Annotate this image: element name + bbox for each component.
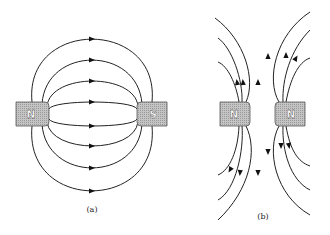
field-line [218,126,251,220]
arrow-icon [89,123,95,128]
field-line [49,102,137,109]
arrow-icon [240,79,246,85]
panel-b: N N (b) [215,12,310,221]
field-line [49,119,137,126]
arrow-icon [89,165,95,170]
field-line [283,30,310,102]
caption-b: (b) [257,212,268,221]
field-line [32,39,153,102]
field-line [218,126,239,175]
magnetic-field-diagram: N S (a) N N (b) [0,0,330,235]
arrow-icon [265,53,270,59]
arrow-icon [292,54,300,62]
panel-a: N S (a) [16,36,167,214]
field-line [286,58,310,102]
field-line [215,18,250,102]
arrow-icon [237,170,243,176]
field-line [283,126,310,190]
pole-label-n-b-left: N [230,109,238,120]
arrow-icon [255,170,260,176]
caption-a: (a) [86,205,97,214]
panel-a-arrows [89,36,95,193]
pole-label-s-a: S [149,109,156,120]
magnet-north-b-left: N [220,102,250,126]
pole-label-n-a: N [27,109,35,120]
arrow-icon [255,79,260,85]
arrow-icon [278,143,283,149]
arrow-icon [89,188,95,193]
arrow-icon [89,36,95,41]
arrow-icon [265,149,270,155]
arrow-icon [89,57,95,62]
magnet-north-b-right: N [275,102,305,126]
pole-label-n-b-right: N [287,109,295,120]
magnet-south-a: S [137,102,167,126]
field-line [218,38,242,102]
arrow-icon [283,52,288,58]
arrow-icon [89,143,95,148]
arrow-icon [89,78,95,83]
field-line [32,126,153,191]
arrow-icon [89,99,95,104]
magnet-north-a: N [16,102,49,126]
